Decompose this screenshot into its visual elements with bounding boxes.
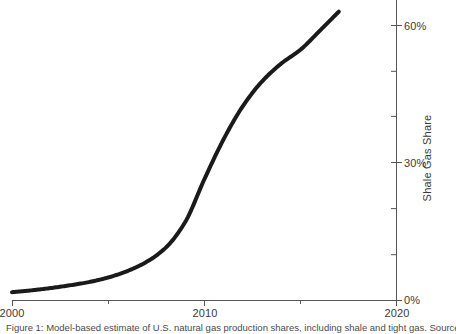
x-tick-label-2010: 2010 xyxy=(193,307,218,319)
shale-gas-share-line xyxy=(12,12,339,293)
x-tick-label-2000: 2000 xyxy=(0,307,24,319)
figure-caption: Figure 1: Model-based estimate of U.S. n… xyxy=(6,322,456,334)
y-axis-title: Shale Gas Share xyxy=(421,115,433,202)
x-axis-major-ticks xyxy=(13,301,397,307)
y-tick-label-60: 60% xyxy=(404,20,426,32)
y-tick-label-0: 0% xyxy=(404,294,420,306)
x-tick-label-2020: 2020 xyxy=(385,307,410,319)
